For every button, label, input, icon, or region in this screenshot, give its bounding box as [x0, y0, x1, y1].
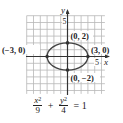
point-bottom: [66, 68, 70, 72]
label-point-right: (3, 0): [91, 45, 110, 55]
label-point-top: (0, 2): [71, 31, 90, 41]
x-tick-5: 5: [95, 58, 99, 67]
fraction-y: y2 4: [59, 96, 68, 115]
point-top: [66, 41, 70, 45]
exponent: 2: [38, 96, 41, 102]
x-axis-label: x: [103, 57, 108, 67]
equals-one: = 1: [74, 100, 87, 111]
label-point-left: (−3, 0): [2, 45, 25, 55]
fraction-x: x2 9: [33, 96, 42, 115]
y-axis-arrow-icon: [66, 9, 70, 14]
point-left: [45, 55, 49, 59]
y-tick-5: 5: [63, 17, 67, 26]
denominator-9: 9: [33, 106, 42, 115]
equation: x2 9 + y2 4 = 1: [0, 96, 123, 115]
plus-sign: +: [48, 100, 54, 111]
point-right: [86, 55, 90, 59]
denominator-4: 4: [59, 106, 68, 115]
y-axis-label: y: [60, 5, 65, 15]
label-point-bottom: (0, −2): [71, 73, 94, 83]
exponent: 2: [64, 96, 67, 102]
